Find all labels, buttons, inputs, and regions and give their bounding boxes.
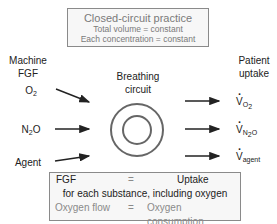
- closed-circuit-box: Closed-circuit practice Total volume = c…: [67, 8, 209, 47]
- output-vagent-sub: agent: [243, 156, 261, 163]
- fgf-equals-uptake-row: FGF = Uptake: [50, 173, 240, 187]
- breathing-label: Breathing: [110, 70, 166, 83]
- arrow-agent-in: [55, 156, 89, 161]
- machine-label: Machine: [6, 54, 50, 67]
- fgf-label: FGF: [6, 67, 50, 80]
- arrow-o2-in: [56, 89, 89, 102]
- oxygen-flow-term: Oxygen flow: [55, 201, 110, 215]
- output-vo2-base: V: [236, 95, 243, 108]
- equals-sign-1: =: [128, 173, 134, 187]
- concentration-line: Each concentration = constant: [68, 34, 208, 44]
- output-vagent-base: V: [236, 150, 243, 163]
- equals-sign-2: =: [128, 201, 134, 215]
- oxygen-flow-row: Oxygen flow = Oxygen consumption: [50, 201, 240, 215]
- output-vagent: Vagent: [236, 150, 260, 166]
- output-vn2o: VN2O: [236, 123, 257, 141]
- patient-label: Patient: [234, 54, 274, 67]
- oxygen-consumption-term: Oxygen consumption: [147, 201, 240, 224]
- output-vn2o-subtail: O: [252, 129, 257, 136]
- circuit-label: circuit: [110, 83, 166, 96]
- closed-circuit-title: Closed-circuit practice: [68, 12, 208, 24]
- fgf-term: FGF: [56, 173, 76, 187]
- circuit-outer-ring: [111, 104, 163, 156]
- uptake-term: Uptake: [177, 173, 209, 187]
- breathing-circuit-label: Breathing circuit: [110, 70, 166, 96]
- input-agent-label: Agent: [15, 157, 41, 168]
- circuit-inner-ring: [123, 116, 151, 144]
- input-o2-sub: 2: [33, 90, 37, 97]
- total-volume-line: Total volume = constant: [68, 24, 208, 34]
- input-n2o-base: N: [22, 124, 29, 135]
- fgf-uptake-box: FGF = Uptake for each substance, includi…: [49, 172, 241, 221]
- input-o2-base: O: [25, 85, 33, 96]
- input-o2: O2: [16, 84, 46, 100]
- input-n2o: N2O: [14, 123, 48, 139]
- output-vo2-subsub: 2: [248, 103, 252, 110]
- machine-fgf-header: Machine FGF: [6, 54, 50, 80]
- uptake-label: uptake: [234, 67, 274, 80]
- each-substance-line: for each substance, including oxygen: [50, 187, 240, 201]
- patient-uptake-header: Patient uptake: [234, 54, 274, 80]
- input-agent: Agent: [8, 156, 48, 169]
- output-vn2o-base: V: [236, 123, 243, 136]
- output-vo2: VO2: [236, 95, 252, 113]
- input-n2o-tail: O: [33, 124, 41, 135]
